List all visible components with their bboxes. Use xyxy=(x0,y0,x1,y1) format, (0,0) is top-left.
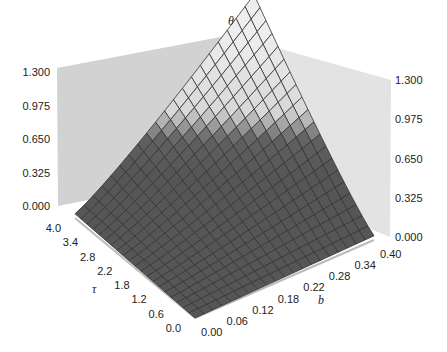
tick-label: 0.000 xyxy=(22,200,50,212)
z-ticks-right: 0.0000.3250.6500.9751.300 xyxy=(395,74,423,243)
tick-label: 0.325 xyxy=(395,192,423,204)
surface-plot: 0.0000.3250.6500.9751.300 0.0000.3250.65… xyxy=(0,0,447,352)
tick-label: 0.28 xyxy=(329,270,350,282)
z-axis-label: θ xyxy=(228,14,234,28)
tick-label: 0.34 xyxy=(354,259,375,271)
tick-label: 0.22 xyxy=(303,281,324,293)
tick-label: 0.975 xyxy=(22,100,50,112)
tick-label: 3.4 xyxy=(63,236,78,248)
tau-axis-label: τ xyxy=(92,282,97,296)
tick-label: 1.8 xyxy=(114,279,129,291)
tick-label: 0.650 xyxy=(395,153,423,165)
tick-label: 1.300 xyxy=(395,74,423,86)
b-axis-label: b xyxy=(318,293,324,307)
tick-label: 0.18 xyxy=(278,293,299,305)
tick-label: 1.300 xyxy=(22,66,50,78)
tick-label: 0.40 xyxy=(380,248,401,260)
tick-label: 0.06 xyxy=(227,315,248,327)
tick-label: 0.6 xyxy=(149,308,164,320)
tick-label: 1.2 xyxy=(131,293,146,305)
tick-label: 0.650 xyxy=(22,133,50,145)
tick-label: 0.0 xyxy=(166,322,181,334)
tick-label: 4.0 xyxy=(46,222,61,234)
tick-label: 2.8 xyxy=(80,251,95,263)
tick-label: 0.325 xyxy=(22,167,50,179)
tick-label: 0.975 xyxy=(395,113,423,125)
z-ticks-left: 0.0000.3250.6500.9751.300 xyxy=(22,66,50,212)
tick-label: 0.000 xyxy=(395,231,423,243)
tick-label: 0.00 xyxy=(201,326,222,338)
tick-label: 2.2 xyxy=(97,265,112,277)
tick-label: 0.12 xyxy=(252,304,273,316)
